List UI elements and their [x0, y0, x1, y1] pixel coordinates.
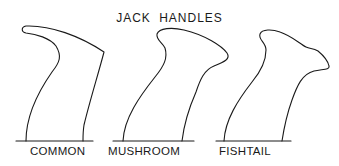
- mushroom-handle-shape: [113, 28, 228, 141]
- label-common: COMMON: [30, 145, 85, 157]
- common-handle-shape: [16, 26, 104, 141]
- fishtail-handle-shape: [216, 30, 329, 141]
- label-fishtail: FISHTAIL: [219, 145, 271, 157]
- jack-handles-diagram: [0, 0, 339, 166]
- label-mushroom: MUSHROOM: [108, 145, 180, 157]
